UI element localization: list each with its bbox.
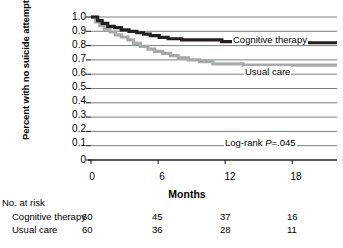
risk-value-usual-care-18: 11 (287, 224, 297, 235)
logrank-prefix: Log-rank (225, 137, 265, 148)
cognitive-therapy-label: Cognitive therapy (232, 34, 308, 45)
risk-table-title: No. at risk (2, 197, 45, 208)
risk-row-label-cognitive-therapy: Cognitive therapy (12, 211, 86, 222)
logrank-label: Log-rank P=.045 (224, 137, 297, 148)
risk-value-cognitive-therapy-0: 60 (82, 211, 93, 222)
risk-value-usual-care-0: 60 (82, 224, 93, 235)
risk-value-usual-care-12: 28 (220, 224, 231, 235)
usual-care-label: Usual care (244, 66, 291, 77)
x-tick-6: 6 (150, 172, 174, 182)
x-tick-18: 18 (284, 172, 308, 182)
x-tick-12: 12 (218, 172, 242, 182)
x-tick-0: 0 (80, 172, 104, 182)
kaplan-meier-figure: Percent with no suicide attempts 1.0 0.9… (0, 0, 343, 248)
risk-value-cognitive-therapy-6: 45 (152, 211, 163, 222)
risk-value-cognitive-therapy-18: 16 (287, 211, 298, 222)
x-axis-title: Months (152, 188, 222, 200)
risk-value-usual-care-6: 36 (152, 224, 163, 235)
risk-value-cognitive-therapy-12: 37 (220, 211, 231, 222)
logrank-value: =.045 (271, 137, 295, 148)
risk-row-label-usual-care: Usual care (12, 224, 57, 235)
